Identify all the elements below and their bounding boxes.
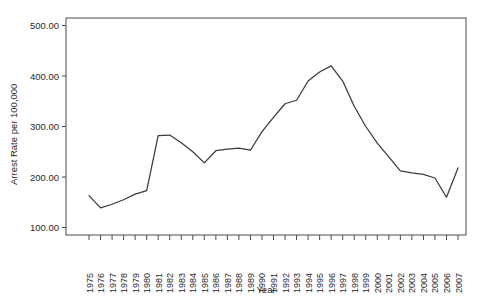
x-tick-label: 1989	[246, 273, 256, 293]
x-tick-label: 2001	[384, 273, 394, 293]
x-tick-label: 1995	[315, 273, 325, 293]
y-tick-label: 200.00	[30, 172, 59, 183]
x-tick-label: 2004	[419, 273, 429, 293]
x-tick-label: 1977	[108, 273, 118, 293]
x-tick-label: 1985	[200, 273, 210, 293]
x-tick-label: 1992	[281, 273, 291, 293]
x-tick-label: 2000	[373, 273, 383, 293]
chart-figure: 500.00 400.00 300.00 200.00 100.00 Arres…	[0, 0, 492, 304]
x-tick-label: 2002	[396, 273, 406, 293]
x-tick-label: 1997	[338, 273, 348, 293]
x-tick-label: 1998	[350, 273, 360, 293]
x-tick-label: 1984	[188, 273, 198, 293]
y-axis-title: Arrest Rate per 100,000	[8, 84, 19, 185]
x-tick-label: 1978	[119, 273, 129, 293]
y-tick-label: 300.00	[30, 121, 59, 132]
x-tick-label: 1999	[361, 273, 371, 293]
y-tick-label: 400.00	[30, 71, 59, 82]
x-tick-label: 2006	[442, 273, 452, 293]
x-tick-label: 1982	[165, 273, 175, 293]
x-tick-label: 1987	[223, 273, 233, 293]
x-tick-label: 1983	[177, 273, 187, 293]
x-tick-label: 2005	[430, 273, 440, 293]
line-chart: 500.00 400.00 300.00 200.00 100.00 Arres…	[0, 0, 492, 304]
x-tick-label: 1975	[85, 273, 95, 293]
x-tick-label: 1980	[142, 273, 152, 293]
x-tick-label: 2003	[407, 273, 417, 293]
y-tick-label: 100.00	[30, 222, 59, 233]
x-tick-label: 1976	[96, 273, 106, 293]
x-tick-label: 1981	[154, 273, 164, 293]
x-tick-label: 1979	[131, 273, 141, 293]
x-tick-label: 2007	[454, 273, 464, 293]
x-tick-label: 1988	[234, 273, 244, 293]
x-tick-label: 1994	[304, 273, 314, 293]
x-tick-label: 1993	[292, 273, 302, 293]
y-tick-label: 500.00	[30, 20, 59, 31]
x-tick-label: 1986	[211, 273, 221, 293]
x-axis-title: Year	[256, 284, 275, 295]
x-tick-label: 1996	[327, 273, 337, 293]
